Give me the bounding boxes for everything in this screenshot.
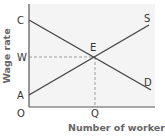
label-e: E — [90, 42, 96, 53]
supply-demand-chart: C W A O Q E S D Number of workers Wage r… — [0, 0, 165, 136]
label-s: S — [144, 13, 150, 24]
label-w: W — [17, 52, 27, 63]
label-q: Q — [91, 108, 99, 119]
label-a: A — [17, 90, 24, 101]
label-c: C — [17, 15, 24, 26]
label-o: O — [17, 108, 25, 119]
y-axis-label: Wage rate — [1, 28, 12, 83]
x-axis-label: Number of workers — [68, 122, 165, 133]
label-d: D — [144, 77, 152, 88]
